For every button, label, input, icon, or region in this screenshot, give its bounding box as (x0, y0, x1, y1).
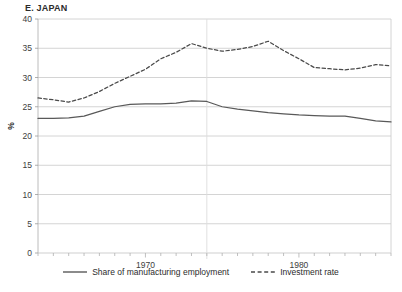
solid-line-icon (63, 268, 87, 276)
gridlines-group (38, 19, 391, 259)
plot-area: 0510152025303540 19701980 (0, 0, 402, 292)
legend-item-label: Investment rate (280, 268, 339, 277)
svg-text:15: 15 (23, 160, 33, 170)
chart-figure: E. JAPAN % 0510152025303540 19701980 Sha… (0, 0, 402, 292)
svg-text:30: 30 (23, 73, 33, 83)
svg-text:20: 20 (23, 131, 33, 141)
y-axis-ticks: 0510152025303540 (23, 14, 38, 258)
series-line-investment-rate (38, 41, 391, 102)
legend-item-share-manufacturing-employment[interactable]: Share of manufacturing employment (63, 268, 229, 277)
svg-text:40: 40 (23, 14, 33, 24)
legend-item-investment-rate[interactable]: Investment rate (251, 268, 339, 277)
svg-text:0: 0 (27, 248, 32, 258)
series-line-share-manufacturing-employment (38, 101, 391, 122)
svg-text:10: 10 (23, 190, 33, 200)
dashed-line-icon (251, 268, 275, 276)
svg-text:35: 35 (23, 43, 33, 53)
legend-item-label: Share of manufacturing employment (92, 268, 229, 277)
chart-legend: Share of manufacturing employment Invest… (0, 268, 402, 277)
data-series-group (38, 41, 391, 122)
svg-text:5: 5 (27, 219, 32, 229)
svg-text:25: 25 (23, 102, 33, 112)
